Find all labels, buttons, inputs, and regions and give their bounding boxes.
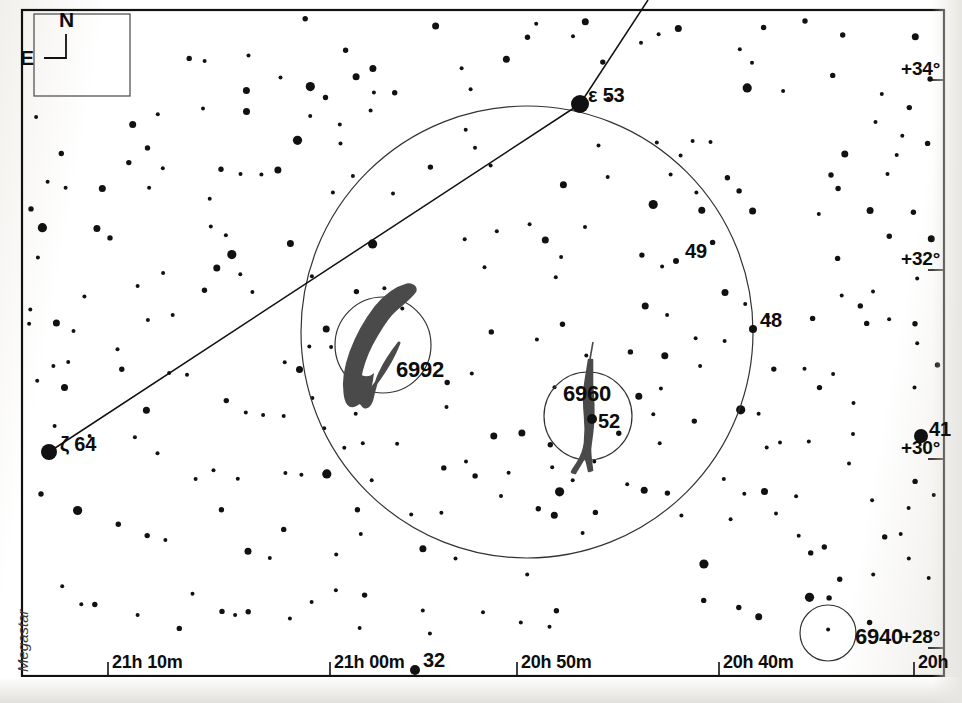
star-dot: [469, 87, 473, 91]
star-dot: [658, 441, 662, 445]
star-dot: [409, 513, 413, 517]
constellation-line-0: [49, 104, 580, 452]
star-dot: [464, 460, 468, 464]
star-dot: [147, 186, 151, 190]
star-dot: [247, 54, 251, 58]
star-dot: [116, 347, 120, 351]
star-dot: [287, 240, 294, 247]
ra-tick-label-21h10m: 21h 10m: [112, 652, 183, 673]
star-dot: [439, 511, 443, 515]
star-dot: [218, 167, 223, 172]
star-dot: [835, 256, 840, 261]
star-dot: [542, 237, 549, 244]
star-dot: [233, 613, 237, 617]
star-dot: [35, 379, 39, 383]
star-dot: [535, 338, 539, 342]
star-dot: [308, 114, 312, 118]
star-dot: [755, 613, 762, 620]
star-dot: [369, 108, 373, 112]
star-dot: [92, 602, 97, 607]
star-dot: [322, 469, 331, 478]
star-dot: [900, 134, 904, 138]
star-dot: [657, 32, 661, 36]
dso-circle-6940: [800, 605, 856, 661]
star-dot: [441, 465, 446, 470]
dso-label-6960: 6960: [563, 381, 611, 407]
dso-label-6940: 6940: [855, 624, 903, 650]
star-dot: [554, 608, 559, 613]
star-dot: [560, 181, 567, 188]
star-dot: [201, 106, 205, 110]
star-dot: [353, 73, 360, 80]
star-dot: [283, 471, 287, 475]
star-dot: [224, 398, 229, 403]
star-dot: [323, 95, 328, 100]
named-star-label-64: ζ 64: [60, 433, 96, 456]
star-dot: [810, 316, 815, 321]
star-dot: [743, 302, 747, 306]
star-dot: [34, 115, 38, 119]
star-dot: [334, 553, 338, 557]
star-dot: [723, 339, 727, 343]
star-dot: [481, 610, 485, 614]
star-dot: [757, 412, 761, 416]
star-dot: [895, 153, 899, 157]
star-dot: [691, 139, 695, 143]
star-dot: [722, 477, 726, 481]
star-dot: [583, 225, 587, 229]
star-dot: [369, 65, 376, 72]
star-dot: [212, 468, 216, 472]
star-dot: [343, 48, 348, 53]
star-dot: [342, 446, 346, 450]
star-dot: [227, 250, 236, 259]
named-star-label-48: 48: [760, 309, 782, 332]
star-dot: [525, 35, 530, 40]
star-dot: [826, 595, 831, 600]
named-star-dot-64: [41, 444, 57, 460]
star-dot: [82, 295, 86, 299]
star-dot: [826, 628, 830, 632]
star-dot: [163, 538, 167, 542]
star-dot: [331, 191, 335, 195]
star-dot: [187, 56, 192, 61]
star-dot: [60, 584, 64, 588]
star-dot: [51, 364, 55, 368]
star-dot: [548, 442, 553, 447]
star-dot: [794, 494, 798, 498]
star-dot: [912, 33, 919, 40]
star-dot: [72, 329, 76, 333]
star-dot: [161, 166, 165, 170]
star-dot: [246, 609, 251, 614]
star-dot: [473, 146, 477, 150]
star-dot: [887, 234, 892, 239]
star-dot: [907, 105, 912, 110]
star-dot: [219, 507, 224, 512]
star-dot: [99, 185, 106, 192]
chart-plot-area: [0, 0, 962, 703]
star-dot: [355, 507, 360, 512]
star-dot: [698, 207, 705, 214]
star-dot: [743, 83, 752, 92]
star-dot: [351, 174, 355, 178]
star-dot: [651, 412, 655, 416]
named-star-label-53: ε 53: [588, 84, 625, 107]
star-dot: [79, 602, 83, 606]
star-dot: [177, 626, 182, 631]
star-dot: [202, 288, 207, 293]
star-dot: [554, 275, 558, 279]
star-dot: [858, 303, 863, 308]
star-dot: [310, 274, 314, 278]
star-dot: [323, 326, 330, 333]
star-dot: [391, 192, 395, 196]
star-dot: [354, 289, 359, 294]
star-dot: [761, 25, 766, 30]
star-dot: [694, 336, 698, 340]
star-dot: [171, 313, 175, 317]
star-dot: [887, 317, 891, 321]
star-dot: [584, 353, 588, 357]
star-dot: [912, 321, 917, 326]
star-dot: [282, 414, 286, 418]
star-dot: [661, 352, 668, 359]
star-dot: [329, 345, 333, 349]
star-dot: [136, 613, 140, 617]
